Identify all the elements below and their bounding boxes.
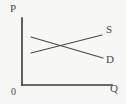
origin-label: 0 — [11, 86, 16, 97]
quantity-axis-label: Q — [110, 83, 118, 94]
demand-curve — [31, 37, 103, 58]
demand-curve-label: D — [106, 54, 114, 65]
diagram-canvas — [0, 0, 126, 104]
supply-demand-diagram: P 0 Q S D — [0, 0, 126, 104]
price-axis-label: P — [10, 3, 16, 14]
supply-curve-label: S — [106, 24, 112, 35]
supply-curve — [31, 35, 102, 53]
